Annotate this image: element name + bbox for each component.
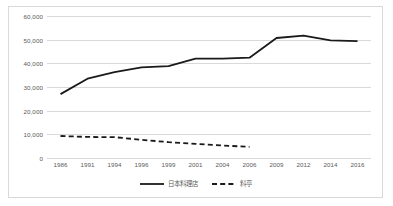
x-axis-tick-label: 1999	[161, 161, 175, 168]
x-axis-tick-label: 2014	[323, 161, 337, 168]
y-axis-tick-label: 40,000	[23, 60, 43, 67]
plot-area	[47, 16, 371, 158]
legend-entry[interactable]: 日本料理店	[140, 179, 198, 188]
y-axis-tick-label: 30,000	[23, 84, 43, 91]
x-axis-tick-label: 2001	[188, 161, 202, 168]
x-axis-tick-label: 2004	[215, 161, 229, 168]
x-axis-tick-label: 1994	[107, 161, 121, 168]
series-layer	[47, 16, 371, 158]
y-axis-tick-label: 10,000	[23, 131, 43, 138]
series-line	[61, 36, 358, 94]
legend-entry[interactable]: 料亭	[212, 179, 252, 188]
solid-line-marker	[140, 181, 164, 187]
x-axis-tick-label: 1996	[134, 161, 148, 168]
x-axis-tick-label: 2012	[296, 161, 310, 168]
x-axis-tick-labels: 1986199119941996199920012004200620092012…	[47, 160, 371, 174]
x-axis-tick-label: 1991	[80, 161, 94, 168]
legend-label: 日本料理店	[168, 179, 198, 188]
x-axis-tick-label: 2016	[350, 161, 364, 168]
y-axis-tick-labels: 010,00020,00030,00040,00050,00060,000	[9, 16, 43, 158]
y-axis-tick-label: 50,000	[23, 36, 43, 43]
chart-plot-wrap: 010,00020,00030,00040,00050,00060,000 19…	[9, 7, 382, 197]
x-axis-tick-label: 1986	[53, 161, 67, 168]
legend-label: 料亭	[240, 179, 252, 188]
x-axis-tick-label: 2006	[242, 161, 256, 168]
y-axis-tick-label: 0	[39, 155, 43, 162]
dashed-line-marker	[212, 181, 236, 187]
y-axis-tick-label: 60,000	[23, 13, 43, 20]
series-line	[61, 136, 250, 147]
chart-legend: 日本料理店料亭	[9, 179, 382, 188]
gridline	[47, 158, 371, 159]
chart-container: 010,00020,00030,00040,00050,00060,000 19…	[8, 6, 383, 198]
y-axis-tick-label: 20,000	[23, 107, 43, 114]
x-axis-tick-label: 2009	[269, 161, 283, 168]
